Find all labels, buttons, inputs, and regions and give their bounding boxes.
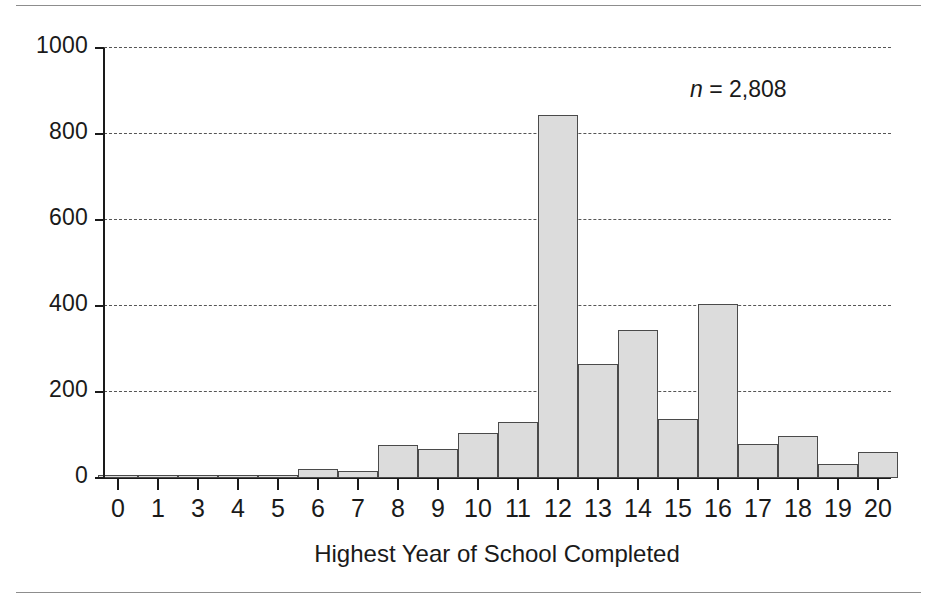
histogram-bar xyxy=(818,464,858,478)
histogram-bar xyxy=(778,436,818,478)
x-axis-tick xyxy=(517,479,518,490)
gridline xyxy=(104,133,891,134)
y-axis-tick-label: 200 xyxy=(2,376,88,403)
histogram-bar xyxy=(378,445,418,478)
y-axis-tick-label: 1000 xyxy=(2,32,88,59)
x-axis-line xyxy=(103,478,891,480)
x-axis-tick xyxy=(557,479,558,490)
histogram-bar xyxy=(658,419,698,478)
x-axis-tick xyxy=(637,479,638,490)
y-axis-tick xyxy=(95,47,104,48)
histogram-bar xyxy=(538,115,578,478)
x-axis-tick xyxy=(677,479,678,490)
y-axis-tick xyxy=(95,305,104,306)
x-axis-tick xyxy=(157,479,158,490)
x-axis-tick xyxy=(277,479,278,490)
y-axis-tick xyxy=(95,391,104,392)
x-axis-tick xyxy=(597,479,598,490)
x-axis-tick xyxy=(317,479,318,490)
histogram-bar xyxy=(698,304,738,478)
histogram-bar xyxy=(738,444,778,478)
sample-size-annotation: n = 2,808 xyxy=(690,76,787,103)
histogram-bar xyxy=(458,433,498,478)
y-axis-tick xyxy=(95,219,104,220)
y-axis-tick-label: 0 xyxy=(2,462,88,489)
x-axis-tick xyxy=(717,479,718,490)
x-axis-title: Highest Year of School Completed xyxy=(103,540,891,568)
figure-container: 02004006008001000 0134567891011121314151… xyxy=(0,0,927,599)
gridline xyxy=(104,305,891,306)
x-axis-tick-label: 20 xyxy=(853,494,903,523)
x-axis-tick xyxy=(197,479,198,490)
x-axis-tick xyxy=(117,479,118,490)
sample-size-value: = 2,808 xyxy=(703,76,787,102)
histogram-bar xyxy=(578,364,618,478)
x-axis-tick xyxy=(877,479,878,490)
x-axis-tick xyxy=(357,479,358,490)
gridline xyxy=(104,219,891,220)
histogram-bar xyxy=(498,422,538,478)
y-axis-tick-label: 400 xyxy=(2,290,88,317)
x-axis-tick xyxy=(477,479,478,490)
x-axis-tick xyxy=(757,479,758,490)
histogram-bar xyxy=(618,330,658,478)
y-axis-tick-label: 800 xyxy=(2,118,88,145)
histogram-plot-area: 02004006008001000 0134567891011121314151… xyxy=(0,0,927,599)
y-axis-tick xyxy=(95,477,104,478)
x-axis-tick xyxy=(437,479,438,490)
gridline xyxy=(104,391,891,392)
y-axis-tick-label: 600 xyxy=(2,204,88,231)
sample-size-symbol: n xyxy=(690,76,703,102)
histogram-bar xyxy=(418,449,458,478)
x-axis-tick xyxy=(837,479,838,490)
x-axis-tick xyxy=(797,479,798,490)
y-axis-line xyxy=(103,48,105,479)
histogram-bar xyxy=(858,452,898,478)
x-axis-tick xyxy=(237,479,238,490)
y-axis-tick xyxy=(95,133,104,134)
gridline xyxy=(104,47,891,48)
x-axis-tick xyxy=(397,479,398,490)
